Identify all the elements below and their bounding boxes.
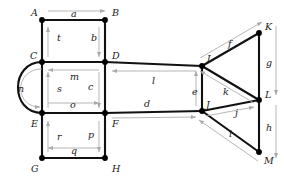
edge-label-e: e: [192, 86, 198, 97]
node-label-B: B: [111, 7, 119, 18]
diagram-canvas: A B C D E F G H I J K L M a b t m c s o …: [0, 0, 284, 181]
node-label-D: D: [111, 50, 120, 61]
dir-arrow-d: [112, 117, 196, 118]
edge-label-t: t: [57, 32, 61, 43]
edge-label-s: s: [57, 83, 62, 94]
edge-label-k: k: [223, 86, 229, 97]
node-labels-group: A B C D E F G H I J K L M: [30, 7, 274, 174]
edge-line-d: [105, 111, 202, 113]
edge-label-m: m: [70, 71, 79, 82]
node-I[interactable]: [199, 63, 205, 69]
node-label-A: A: [30, 7, 38, 18]
node-D[interactable]: [102, 59, 108, 65]
node-label-I: I: [206, 53, 211, 64]
node-J[interactable]: [199, 108, 205, 114]
node-label-C: C: [30, 50, 38, 61]
edge-label-p: p: [88, 129, 94, 140]
node-label-G: G: [31, 163, 39, 174]
node-L[interactable]: [256, 97, 262, 103]
node-label-H: H: [111, 163, 121, 174]
edge-label-r: r: [57, 131, 63, 142]
node-C[interactable]: [39, 59, 45, 65]
dir-arrow-i: [199, 120, 258, 161]
edge-line-l: [105, 62, 202, 66]
edge-label-b: b: [91, 32, 97, 43]
edge-label-d: d: [144, 98, 150, 109]
node-F[interactable]: [102, 110, 108, 116]
node-label-J: J: [204, 99, 211, 110]
node-H[interactable]: [102, 155, 108, 161]
edge-label-a: a: [71, 8, 77, 19]
node-K[interactable]: [256, 30, 262, 36]
edge-label-c: c: [88, 81, 94, 92]
edge-label-q: q: [71, 145, 77, 156]
edge-label-o: o: [70, 99, 76, 110]
node-label-F: F: [111, 118, 119, 129]
node-A[interactable]: [39, 17, 45, 23]
edge-line-k: [202, 66, 259, 100]
node-M[interactable]: [256, 149, 262, 155]
node-G[interactable]: [39, 155, 45, 161]
node-label-L: L: [264, 89, 271, 100]
edge-label-j: j: [233, 107, 238, 118]
edge-label-i: i: [229, 128, 232, 139]
node-label-K: K: [264, 21, 273, 32]
edge-label-h: h: [266, 122, 272, 133]
graph-svg: A B C D E F G H I J K L M a b t m c s o …: [0, 0, 284, 181]
edge-label-l: l: [152, 75, 155, 86]
node-label-E: E: [30, 118, 38, 129]
edge-label-n: n: [18, 83, 24, 94]
node-B[interactable]: [102, 17, 108, 23]
edge-line-j: [202, 100, 259, 111]
node-E[interactable]: [39, 110, 45, 116]
edge-label-g: g: [266, 57, 272, 68]
node-label-M: M: [263, 155, 274, 166]
